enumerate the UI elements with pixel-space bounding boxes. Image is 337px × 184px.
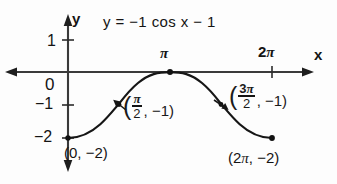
point-label-two-pi: (2π, −2)	[228, 150, 279, 166]
pi-half-numerator: π	[132, 92, 141, 105]
point-0-minus2	[65, 135, 70, 140]
x-axis-right-arrowhead	[302, 68, 314, 77]
pi-half-open-paren: (	[123, 94, 131, 119]
xtick-label-2pi: 2π	[258, 44, 275, 60]
leader-arrow-3pi-half	[214, 100, 229, 110]
xtick-label-pi: π	[160, 46, 168, 61]
three-pi-half-open-paren: (	[229, 84, 237, 109]
equation-label: y = −1 cos x − 1	[103, 14, 216, 29]
three-pi-half-fraction: 3π 2	[238, 82, 254, 110]
point-label-3pi-half: ( 3π 2 , −1)	[229, 82, 287, 110]
point-label-origin: (0, −2)	[64, 145, 108, 160]
pi-half-rest: , −1)	[144, 102, 174, 120]
ytick-label-minus1: −1	[35, 96, 53, 112]
point-label-pi-half: ( π 2 , −1)	[123, 92, 174, 120]
ytick-label-0: 0	[45, 76, 54, 93]
point-2pi-minus2	[269, 135, 275, 141]
x-axis-label: x	[314, 47, 322, 62]
pi-half-fraction: π 2	[132, 92, 141, 120]
three-pi-half-rest: , −1)	[257, 92, 287, 110]
point-pi-zero	[167, 69, 173, 75]
three-pi-half-numerator: 3π	[238, 82, 254, 95]
xtick-2pi-pi-glyph: π	[266, 44, 274, 60]
y-axis-bottom-arrowhead	[64, 160, 73, 172]
two-pi-rest: , −2)	[249, 149, 279, 166]
two-pi-prefix: (2	[228, 149, 241, 166]
ytick-label-minus2: −2	[34, 129, 52, 145]
y-axis-top-arrowhead	[64, 14, 73, 26]
three-pi-half-numerator-pi-glyph: π	[247, 81, 254, 96]
three-pi-half-denominator: 2	[242, 97, 251, 110]
three-pi-half-numerator-coefficient: 3	[239, 81, 246, 96]
x-axis-left-arrowhead	[5, 68, 17, 77]
two-pi-pi-glyph: π	[241, 150, 249, 166]
y-axis-label: y	[72, 11, 80, 26]
cosine-graph-figure: y = −1 cos x − 1 y x 1 0 −1 −2 π 2π (0, …	[0, 0, 337, 184]
ytick-label-1: 1	[47, 33, 56, 49]
pi-half-denominator: 2	[132, 107, 141, 120]
